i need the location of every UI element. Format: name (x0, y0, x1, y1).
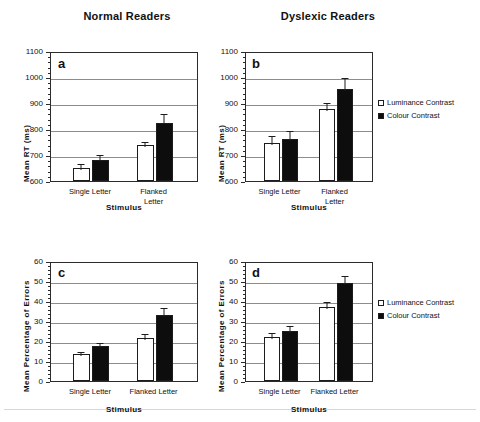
y-axis-minor-tick (48, 73, 50, 74)
y-axis-minor-tick (243, 161, 245, 162)
y-axis-minor-tick (48, 120, 50, 121)
error-bar-cap-top (286, 326, 293, 327)
x-tick-label-line1: Flanked (321, 187, 348, 196)
x-axis-title: Stimulus (50, 203, 198, 212)
y-axis-tick (241, 262, 245, 263)
y-axis-minor-tick (48, 177, 50, 178)
bar-c-0-luminance (73, 354, 90, 381)
y-axis-tick-label: 900 (205, 99, 238, 108)
y-axis-minor-tick (48, 338, 50, 339)
y-axis-tick (46, 182, 50, 183)
y-axis-minor-tick (48, 290, 50, 291)
x-axis-title: Stimulus (50, 405, 198, 414)
bar-d-1-colour (337, 283, 353, 381)
error-bar-cap-top (161, 114, 168, 115)
y-axis-tick (46, 322, 50, 323)
bar-b-1-colour (337, 89, 353, 181)
y-axis-minor-tick (48, 109, 50, 110)
y-axis-title: Mean Percentage of Errors (22, 280, 31, 392)
error-bar-stem (326, 103, 327, 111)
panel-d-letter: d (252, 265, 260, 280)
legend-label: Luminance Contrast (387, 98, 454, 107)
y-axis-minor-tick (243, 350, 245, 351)
y-axis-minor-tick (243, 294, 245, 295)
error-bar (337, 276, 353, 285)
y-axis-tick-label: 1000 (10, 73, 43, 82)
x-tick-label: Flanked Letter (119, 387, 189, 397)
bar-d-0-luminance (264, 337, 280, 381)
x-tick-label: Single Letter (55, 187, 125, 197)
y-axis-minor-tick (48, 83, 50, 84)
legend-swatch-luminance-icon (378, 300, 384, 306)
y-axis-tick (241, 302, 245, 303)
y-axis-title: Mean RT (ms) (22, 125, 31, 182)
y-axis-title: Mean Percentage of Errors (217, 280, 226, 392)
y-axis-minor-tick (243, 270, 245, 271)
error-bar (92, 343, 109, 348)
error-bar-cap-top (97, 343, 104, 344)
x-tick-label: Flanked Letter (300, 387, 370, 397)
y-axis-minor-tick (243, 73, 245, 74)
y-axis-tick (46, 342, 50, 343)
y-axis-minor-tick (243, 298, 245, 299)
error-bar-stem (344, 276, 345, 285)
error-bar-cap-top (268, 136, 275, 137)
y-axis-minor-tick (243, 366, 245, 367)
gridline (51, 343, 197, 344)
y-axis-minor-tick (243, 177, 245, 178)
bar-a-1-luminance (137, 145, 154, 181)
error-bar (337, 78, 353, 92)
y-axis-tick (241, 382, 245, 383)
x-tick-label: Single Letter (55, 387, 125, 397)
panel-d: d (245, 262, 373, 382)
error-bar-cap-top (286, 131, 293, 132)
y-axis-minor-tick (48, 161, 50, 162)
error-bar-stem (100, 155, 101, 162)
y-axis-minor-tick (243, 94, 245, 95)
y-axis-minor-tick (48, 378, 50, 379)
x-axis-title: Stimulus (245, 405, 373, 414)
y-axis-tick (241, 342, 245, 343)
error-bar (282, 131, 298, 141)
x-tick-label-line1: Flanked (140, 187, 167, 196)
y-axis-minor-tick (48, 366, 50, 367)
column-title-dyslexic: Dyslexic Readers (248, 10, 408, 22)
error-bar (319, 103, 335, 111)
gridline (51, 303, 197, 304)
gridline (246, 105, 372, 106)
legend-item: Colour Contrast (378, 111, 454, 120)
y-axis-minor-tick (48, 310, 50, 311)
y-axis-minor-tick (243, 318, 245, 319)
legend-item: Luminance Contrast (378, 98, 454, 107)
y-axis-minor-tick (243, 358, 245, 359)
y-axis-minor-tick (48, 286, 50, 287)
panel-a-plot (50, 52, 198, 182)
y-axis-minor-tick (243, 378, 245, 379)
bar-a-1-colour (156, 123, 173, 182)
panel-a-letter: a (58, 56, 65, 71)
y-axis-minor-tick (48, 270, 50, 271)
y-axis-minor-tick (243, 83, 245, 84)
figure-root: Normal Readers Dyslexic Readers a b c d … (0, 0, 480, 422)
y-axis-tick (241, 78, 245, 79)
y-axis-tick (46, 156, 50, 157)
panel-c-plot (50, 262, 198, 382)
y-axis-minor-tick (243, 330, 245, 331)
y-axis-minor-tick (48, 166, 50, 167)
y-axis-tick-label: 60 (205, 257, 238, 266)
y-axis-minor-tick (243, 120, 245, 121)
y-axis-minor-tick (243, 314, 245, 315)
y-axis-minor-tick (48, 57, 50, 58)
panel-b-letter: b (252, 56, 260, 71)
error-bar-cap-top (142, 142, 149, 143)
legend-label: Luminance Contrast (387, 298, 454, 307)
y-axis-minor-tick (48, 274, 50, 275)
y-axis-minor-tick (48, 135, 50, 136)
y-axis-minor-tick (48, 266, 50, 267)
error-bar-cap-top (78, 352, 85, 353)
y-axis-tick (241, 282, 245, 283)
gridline (246, 323, 372, 324)
error-bar (156, 308, 173, 317)
y-axis-tick (46, 262, 50, 263)
y-axis-minor-tick (243, 88, 245, 89)
